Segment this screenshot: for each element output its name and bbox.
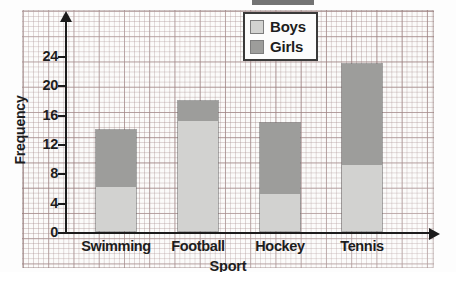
y-tick-0 <box>58 232 67 234</box>
bar-segment-boys-football <box>178 121 218 231</box>
bar-segment-girls-hockey <box>260 123 300 196</box>
y-tick-label-0: 0 <box>18 224 58 240</box>
legend-item-boys: Boys <box>250 17 306 36</box>
page-bottom-margin <box>0 272 456 291</box>
x-category-label-tennis: Tennis <box>302 238 422 254</box>
bar-segment-boys-hockey <box>260 194 300 231</box>
legend-item-girls: Girls <box>250 37 306 56</box>
y-tick-4 <box>58 203 67 205</box>
y-tick-label-4: 4 <box>18 195 58 211</box>
bar-football <box>177 100 219 232</box>
girls-swatch-icon <box>250 40 264 54</box>
bar-segment-boys-tennis <box>342 165 382 231</box>
x-axis-line <box>65 232 432 234</box>
bar-segment-girls-tennis <box>342 64 382 167</box>
y-tick-24 <box>58 56 67 58</box>
y-tick-label-24: 24 <box>18 48 58 64</box>
plot-area: 0 4 8 12 16 20 24 Frequency SwimmingFoot… <box>0 0 456 291</box>
legend-label-girls: Girls <box>270 38 303 55</box>
y-tick-12 <box>58 144 67 146</box>
bar-segment-boys-swimming <box>96 187 136 231</box>
bar-segment-girls-swimming <box>96 130 136 189</box>
chart-legend: Boys Girls <box>243 12 318 61</box>
x-axis-arrow-icon <box>429 228 440 240</box>
bar-hockey <box>259 122 301 232</box>
y-tick-8 <box>58 173 67 175</box>
y-tick-16 <box>58 115 67 117</box>
legend-label-boys: Boys <box>270 18 306 35</box>
y-axis-arrow-icon <box>60 11 72 22</box>
y-axis-title: Frequency <box>12 80 28 180</box>
boys-swatch-icon <box>250 20 264 34</box>
bar-tennis <box>341 63 383 232</box>
stacked-bar-chart-figure: 0 4 8 12 16 20 24 Frequency SwimmingFoot… <box>0 0 456 291</box>
y-tick-20 <box>58 85 67 87</box>
bar-swimming <box>95 129 137 232</box>
bar-segment-girls-football <box>178 101 218 123</box>
